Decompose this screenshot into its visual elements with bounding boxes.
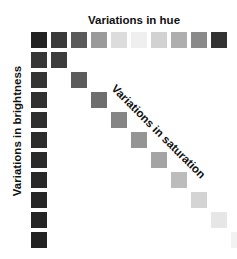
saturation-swatch — [71, 72, 87, 88]
saturation-swatch — [91, 92, 107, 108]
hue-swatch — [211, 32, 227, 48]
hue-swatch — [71, 32, 87, 48]
brightness-swatch — [31, 212, 47, 228]
hue-swatch — [51, 32, 67, 48]
brightness-swatch — [31, 232, 47, 248]
hue-swatch — [31, 32, 47, 48]
saturation-swatch — [151, 152, 167, 168]
brightness-swatch — [31, 132, 47, 148]
hue-swatch — [131, 32, 147, 48]
hue-swatch — [171, 32, 187, 48]
saturation-swatch — [191, 192, 207, 208]
brightness-swatch — [31, 192, 47, 208]
hue-swatch — [111, 32, 127, 48]
hue-swatch — [91, 32, 107, 48]
brightness-swatch — [31, 52, 47, 68]
saturation-swatch — [51, 52, 67, 68]
brightness-swatch — [31, 152, 47, 168]
saturation-swatch — [131, 132, 147, 148]
brightness-swatch — [31, 112, 47, 128]
hue-swatch — [191, 32, 207, 48]
saturation-swatch — [111, 112, 127, 128]
brightness-swatch — [31, 72, 47, 88]
hue-label: Variations in hue — [88, 15, 180, 27]
brightness-label: Variations in brightness — [12, 66, 24, 196]
hue-swatch — [151, 32, 167, 48]
brightness-swatch — [31, 92, 47, 108]
saturation-swatch — [231, 232, 237, 248]
saturation-swatch — [171, 172, 187, 188]
saturation-swatch — [211, 212, 227, 228]
brightness-swatch — [31, 172, 47, 188]
